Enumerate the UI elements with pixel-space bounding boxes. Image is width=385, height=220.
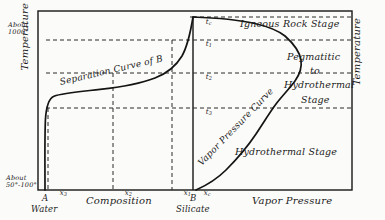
tick-tc-sub: c [209,20,212,26]
tick-label-xc: xc [194,183,211,205]
tick-t1-sub: 1 [209,42,212,48]
right-axis-title: Temperature [352,0,363,86]
left-axis-title: Temperature [20,0,31,71]
endpoint-letter-a: A [42,194,48,203]
tick-x1-sub: 1 [188,191,191,197]
region-igneous-rock-stage: Igneous Rock Stage [240,19,340,29]
figure-canvas: About 1000° About 50°-100° Temperature T… [0,0,385,220]
region-pegmatitic-line3: Hydrothermal [284,80,354,90]
region-hydrothermal-stage: Hydrothermal Stage [235,147,337,157]
tick-x3-sub: 3 [64,191,67,197]
region-pegmatitic-line1: Pegmatitic [287,52,340,62]
tick-x2-sub: 2 [129,191,132,197]
region-pegmatitic-line4: Stage [301,95,330,105]
bottom-axis-vapor-title: Vapor Pressure [252,196,332,207]
tick-t2-sub: 2 [209,75,212,81]
endpoint-name-silicate: Silicate [176,205,210,214]
separation-curve [45,17,193,190]
endpoint-name-water: Water [31,205,58,214]
tick-t3-sub: 3 [209,110,212,116]
tick-label-t2: t2 [196,67,212,89]
tick-label-t3: t3 [196,102,212,124]
tick-label-x1: x1 [174,183,191,205]
region-pegmatitic-line2: to [310,66,320,76]
tick-label-tc: tc [196,12,212,34]
left-axis-bottom-value: About 50°-100° [6,175,37,189]
tick-label-t1: t1 [196,34,212,56]
tick-xc-sub: c [208,191,211,197]
tick-label-x2: x2 [115,183,132,205]
tick-label-x3: x3 [50,183,67,205]
